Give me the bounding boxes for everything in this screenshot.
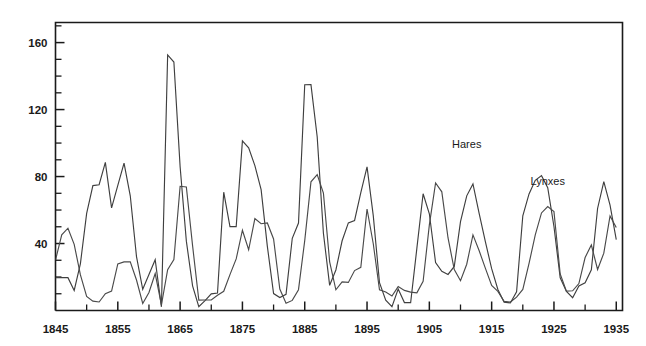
- annotation-lynxes: Lynxes: [531, 175, 566, 187]
- x-axis-tick-label: 1865: [167, 323, 193, 335]
- hare-lynx-line-chart: 4080120160 18451855186518751885189519051…: [0, 0, 646, 346]
- x-axis-tick-label: 1925: [541, 323, 567, 335]
- x-axis-tick-label: 1895: [354, 323, 380, 335]
- figure-background: [0, 0, 646, 346]
- x-axis-tick-label: 1935: [603, 323, 629, 335]
- x-axis-tick-label: 1845: [43, 323, 69, 335]
- y-axis-tick-label: 40: [35, 238, 48, 250]
- x-axis-tick-label: 1905: [417, 323, 443, 335]
- x-axis-tick-label: 1915: [479, 323, 505, 335]
- annotation-hares: Hares: [452, 138, 482, 150]
- x-axis-tick-label: 1885: [292, 323, 318, 335]
- x-axis-tick-label: 1875: [230, 323, 256, 335]
- y-axis-tick-label: 160: [28, 37, 47, 49]
- x-axis-tick-label: 1855: [105, 323, 131, 335]
- y-axis-tick-label: 120: [28, 104, 47, 116]
- chart-figure: 4080120160 18451855186518751885189519051…: [0, 0, 646, 346]
- y-axis-tick-label: 80: [35, 171, 48, 183]
